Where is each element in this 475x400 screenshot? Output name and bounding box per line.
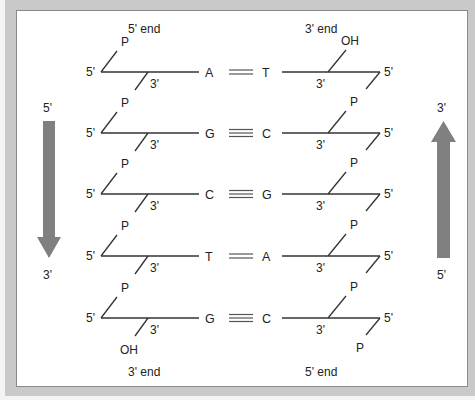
- right-3prime-bond-line: [328, 111, 346, 133]
- right-3prime-label: 3': [316, 199, 325, 213]
- right-5prime-label: 5': [384, 311, 393, 325]
- left-top-group-label: P: [121, 281, 129, 295]
- left-base-label: C: [205, 188, 214, 202]
- right-3prime-label: 3': [316, 138, 325, 152]
- right-base-label: A: [262, 250, 271, 264]
- right-3prime-bond-line: [328, 50, 346, 72]
- right-3prime-bond-line: [328, 234, 346, 256]
- right-strand-bottom-label: 5' end: [305, 365, 337, 379]
- left-top-group-label: P: [121, 96, 129, 110]
- left-top-group-label: P: [121, 219, 129, 233]
- left-base-label: T: [205, 250, 213, 264]
- left-5prime-label: 5': [86, 126, 95, 140]
- left-bottom-group-label: OH: [120, 343, 138, 357]
- left-top-group-label: P: [121, 157, 129, 171]
- left-3prime-label: 3': [150, 261, 159, 275]
- left-strand-top-label: 5' end: [128, 22, 160, 36]
- left-phosphate-bond-line: [101, 173, 117, 194]
- right-3prime-label: 3': [316, 323, 325, 337]
- right-5prime-label: 5': [384, 187, 393, 201]
- left-3prime-bond-line: [135, 256, 148, 274]
- right-top-group-label: P: [350, 95, 358, 109]
- right-top-group-label: P: [350, 280, 358, 294]
- right-phosphate-bond-line: [366, 194, 380, 211]
- left-strand-direction-arrow-icon: [37, 121, 61, 258]
- left-3prime-label: 3': [150, 199, 159, 213]
- right-base-label: C: [262, 312, 271, 326]
- right-base-label: G: [262, 188, 272, 202]
- left-phosphate-bond-line: [101, 51, 117, 72]
- left-base-label: G: [205, 312, 215, 326]
- right-5prime-label: 5': [384, 249, 393, 263]
- right-base-label: T: [262, 66, 270, 80]
- right-3prime-label: 3': [316, 77, 325, 91]
- right-top-group-label: P: [350, 156, 358, 170]
- left-strand-bottom-label: 3' end: [128, 365, 160, 379]
- right-3prime-bond-line: [328, 296, 346, 318]
- right-phosphate-bond-line: [366, 72, 380, 89]
- left-5prime-label: 5': [86, 249, 95, 263]
- left-arrow-start-label: 5': [43, 101, 52, 115]
- dna-diagram: 5' end 3' end 3' end 5' end 5' 3' 3' 5' …: [0, 0, 475, 400]
- right-5prime-label: 5': [384, 126, 393, 140]
- right-bottom-group-label: P: [356, 341, 364, 355]
- left-phosphate-bond-line: [101, 235, 117, 256]
- right-arrow-start-label: 5': [437, 268, 446, 282]
- left-top-group-label: P: [121, 35, 129, 49]
- left-3prime-bond-line: [135, 194, 148, 212]
- left-base-label: G: [205, 127, 215, 141]
- right-top-group-label: OH: [341, 34, 359, 48]
- left-3prime-bond-line: [135, 133, 148, 151]
- left-5prime-label: 5': [86, 311, 95, 325]
- left-arrow-end-label: 3': [43, 268, 52, 282]
- right-phosphate-bond-line: [366, 318, 380, 335]
- right-phosphate-bond-line: [366, 256, 380, 273]
- left-3prime-bond-line: [135, 318, 148, 336]
- right-5prime-label: 5': [384, 65, 393, 79]
- left-5prime-label: 5': [86, 187, 95, 201]
- left-3prime-label: 3': [150, 77, 159, 91]
- right-strand-direction-arrow-icon: [431, 121, 456, 258]
- left-3prime-label: 3': [150, 138, 159, 152]
- left-phosphate-bond-line: [101, 112, 117, 133]
- left-base-label: A: [205, 66, 214, 80]
- right-3prime-label: 3': [316, 261, 325, 275]
- right-strand-top-label: 3' end: [305, 22, 337, 36]
- right-top-group-label: P: [350, 218, 358, 232]
- left-5prime-label: 5': [86, 65, 95, 79]
- right-3prime-bond-line: [328, 172, 346, 194]
- left-3prime-bond-line: [135, 72, 148, 90]
- right-arrow-end-label: 3': [437, 101, 446, 115]
- left-phosphate-bond-line: [101, 297, 117, 318]
- left-3prime-label: 3': [150, 323, 159, 337]
- right-phosphate-bond-line: [366, 133, 380, 150]
- right-base-label: C: [262, 127, 271, 141]
